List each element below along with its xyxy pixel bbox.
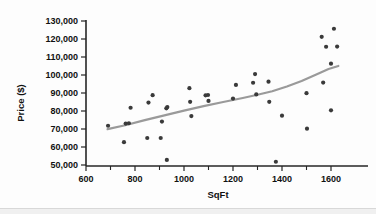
data-point bbox=[106, 124, 110, 128]
data-point bbox=[189, 114, 193, 118]
y-tick-label: 90,000 bbox=[50, 88, 78, 98]
data-point bbox=[304, 91, 308, 95]
data-point bbox=[127, 121, 131, 125]
y-tick-label: 120,000 bbox=[45, 34, 78, 44]
data-point bbox=[320, 35, 324, 39]
data-point bbox=[324, 45, 328, 49]
data-point bbox=[165, 105, 169, 109]
data-point bbox=[128, 106, 132, 110]
x-tick-label: 1400 bbox=[272, 174, 292, 184]
data-point bbox=[159, 136, 163, 140]
data-point bbox=[188, 100, 192, 104]
y-axis-labels: 50,00060,00070,00080,00090,000100,000110… bbox=[45, 16, 78, 170]
data-point bbox=[145, 136, 149, 140]
data-point bbox=[165, 158, 169, 162]
y-tick-label: 130,000 bbox=[45, 16, 78, 26]
x-tick-label: 1200 bbox=[223, 174, 243, 184]
data-point bbox=[305, 127, 309, 131]
plot-canvas: 50,00060,00070,00080,00090,000100,000110… bbox=[0, 0, 376, 214]
data-point bbox=[267, 100, 271, 104]
x-tick-label: 1000 bbox=[174, 174, 194, 184]
x-axis-labels: 6008001000120014001600 bbox=[78, 174, 341, 184]
data-point bbox=[280, 114, 284, 118]
y-tick-label: 70,000 bbox=[50, 124, 78, 134]
x-tick-label: 800 bbox=[127, 174, 142, 184]
y-axis-title: Price ($) bbox=[15, 84, 26, 122]
trend-curve bbox=[108, 66, 339, 129]
x-tick-label: 600 bbox=[78, 174, 93, 184]
data-point bbox=[329, 108, 333, 112]
y-tick-label: 80,000 bbox=[50, 106, 78, 116]
data-point bbox=[160, 120, 164, 124]
data-point bbox=[187, 86, 191, 90]
data-point bbox=[251, 81, 255, 85]
data-point bbox=[122, 140, 126, 144]
data-point bbox=[234, 83, 238, 87]
data-point bbox=[231, 96, 235, 100]
data-point bbox=[151, 93, 155, 97]
bottom-border-strip bbox=[0, 208, 376, 214]
y-tick-label: 110,000 bbox=[46, 52, 78, 62]
data-point bbox=[146, 100, 150, 104]
data-point bbox=[266, 80, 270, 84]
data-point bbox=[206, 99, 210, 103]
data-point bbox=[321, 80, 325, 84]
data-points bbox=[106, 27, 339, 164]
data-point bbox=[329, 62, 333, 66]
data-point bbox=[274, 160, 278, 164]
data-point bbox=[254, 92, 258, 96]
x-axis-title: SqFt bbox=[207, 189, 229, 200]
data-point bbox=[203, 93, 207, 97]
data-point bbox=[335, 44, 339, 48]
y-tick-label: 60,000 bbox=[50, 142, 78, 152]
data-point bbox=[253, 72, 257, 76]
y-tick-label: 50,000 bbox=[50, 160, 78, 170]
scatter-chart: 50,00060,00070,00080,00090,000100,000110… bbox=[0, 0, 376, 214]
x-tick-label: 1600 bbox=[321, 174, 341, 184]
data-point bbox=[332, 27, 336, 31]
y-tick-label: 100,000 bbox=[45, 70, 78, 80]
